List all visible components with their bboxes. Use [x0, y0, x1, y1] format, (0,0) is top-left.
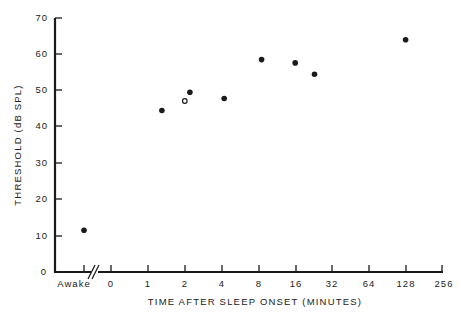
scatter-chart: 0 10 20 30 40 50 60 70 THRESHOLD (dB SPL… [0, 0, 461, 316]
x-tick-64: 64 [363, 278, 376, 289]
x-tick-256: 256 [435, 278, 454, 289]
x-axis [54, 265, 443, 279]
x-tick-1: 1 [145, 278, 151, 289]
y-tick-0: 0 [41, 266, 47, 277]
x-tick-32: 32 [326, 278, 339, 289]
filled-data-point [81, 228, 87, 234]
x-tick-128: 128 [397, 278, 416, 289]
x-tick-awake: Awake [57, 278, 90, 289]
x-tick-0: 0 [108, 278, 114, 289]
filled-data-point [259, 57, 265, 63]
y-tick-70: 70 [35, 12, 48, 23]
x-axis-title: TIME AFTER SLEEP ONSET (MINUTES) [148, 296, 362, 307]
y-tick-20: 20 [35, 193, 48, 204]
filled-data-point [187, 90, 193, 96]
y-tick-labels: 0 10 20 30 40 50 60 70 [35, 12, 48, 277]
data-points [81, 37, 408, 233]
y-tick-40: 40 [35, 120, 48, 131]
y-axis [55, 18, 62, 273]
filled-data-point [403, 37, 409, 43]
x-tick-8: 8 [256, 278, 262, 289]
y-tick-50: 50 [35, 84, 48, 95]
x-tick-labels: Awake 0 1 2 4 8 16 32 64 128 256 [57, 278, 453, 289]
x-tick-4: 4 [219, 278, 225, 289]
filled-data-point [292, 60, 298, 66]
y-axis-title: THRESHOLD (dB SPL) [12, 84, 23, 205]
open-data-point [183, 99, 188, 104]
y-tick-60: 60 [35, 48, 48, 59]
x-tick-16: 16 [290, 278, 303, 289]
filled-data-point [312, 71, 318, 77]
filled-data-point [221, 96, 227, 102]
filled-data-point [159, 108, 165, 114]
x-tick-2: 2 [182, 278, 188, 289]
y-tick-30: 30 [35, 157, 48, 168]
y-tick-10: 10 [35, 230, 48, 241]
